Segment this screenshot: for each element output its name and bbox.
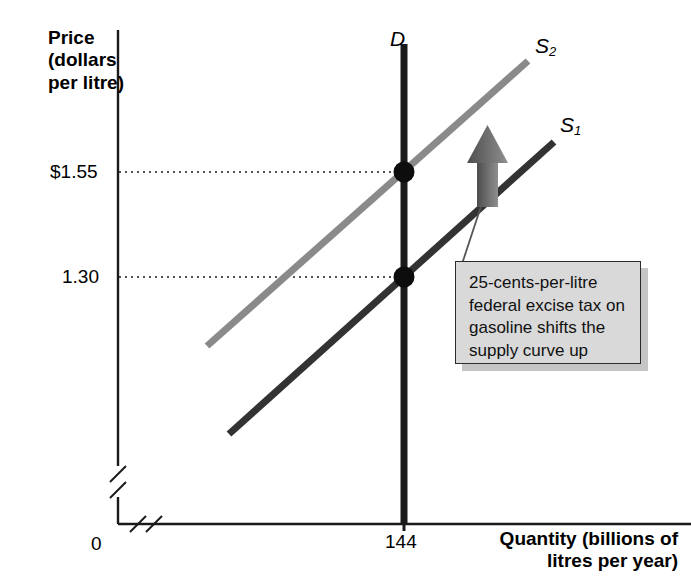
equilibrium-point-new (394, 162, 415, 183)
curve-label-supply-original: S1 (560, 113, 581, 139)
x-tick-label-144: 144 (385, 531, 417, 553)
origin-label: 0 (91, 533, 102, 555)
y-axis-title: Price (dollars per litre) (48, 27, 124, 94)
y-tick-label-155: $1.55 (50, 161, 98, 183)
shift-arrow-icon (467, 125, 508, 207)
curve-label-s2-base: S (535, 34, 549, 57)
y-axis-break-icon (110, 466, 126, 498)
curve-label-s2-subscript: 2 (549, 44, 556, 59)
curve-label-demand: D (390, 27, 405, 52)
curve-label-supply-shifted: S2 (535, 34, 556, 60)
equilibrium-point-original (394, 267, 415, 288)
y-tick-label-130: 1.30 (62, 266, 99, 288)
annotation-callout-text: 25-cents-per-litre federal excise tax on… (469, 272, 635, 362)
annotation-callout-box: 25-cents-per-litre federal excise tax on… (455, 261, 641, 364)
x-axis-title: Quantity (billions of litres per year) (440, 528, 678, 573)
curve-label-s1-subscript: 1 (574, 123, 581, 138)
curve-label-s1-base: S (560, 113, 574, 136)
